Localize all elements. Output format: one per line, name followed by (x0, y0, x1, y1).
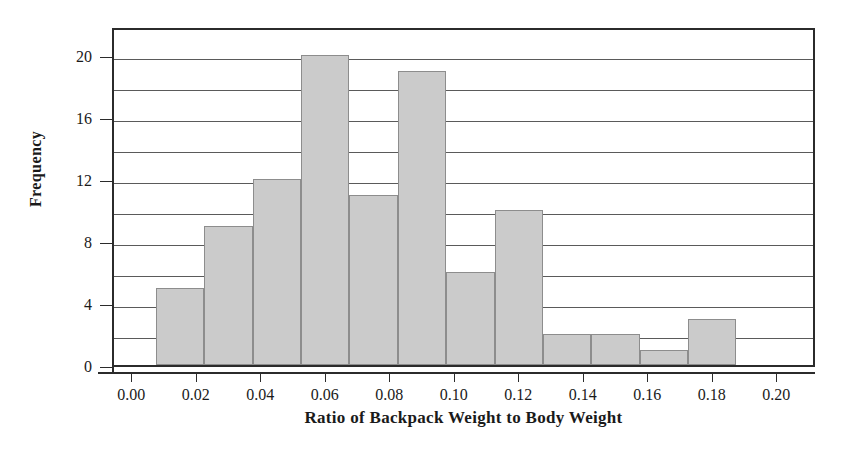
x-axis-tick-mark (712, 373, 713, 382)
x-axis-tick-mark (583, 373, 584, 382)
gridline (114, 152, 813, 153)
x-axis-tick-mark (196, 373, 197, 382)
y-axis-title: Frequency (27, 89, 45, 249)
x-axis-title: Ratio of Backpack Weight to Body Weight (112, 408, 815, 428)
x-axis-tick-mark (260, 373, 261, 382)
plot-inner (114, 30, 813, 365)
x-axis-tick-label: 0.06 (295, 387, 355, 403)
x-axis-tick-label: 0.20 (746, 387, 806, 403)
y-axis-tick-label: 20 (46, 49, 92, 65)
histogram-chart: Frequency 048121620 0.000.020.040.060.08… (0, 0, 858, 459)
y-axis-tick-mark (100, 305, 112, 306)
x-axis-tick-mark (454, 373, 455, 382)
histogram-bar (301, 55, 349, 365)
histogram-bar (688, 319, 736, 365)
histogram-bar (204, 226, 252, 365)
x-axis-tick-label: 0.14 (553, 387, 613, 403)
y-axis-tick-mark (100, 367, 112, 368)
gridline (114, 183, 813, 184)
x-axis-tick-mark (325, 373, 326, 382)
histogram-bar (591, 334, 639, 365)
x-axis-tick-mark (647, 373, 648, 382)
y-axis-tick-label: 12 (46, 173, 92, 189)
y-axis-tick-mark (100, 181, 112, 182)
histogram-bar (253, 179, 301, 365)
x-axis-tick-label: 0.00 (101, 387, 161, 403)
histogram-bar (495, 210, 543, 365)
histogram-bar (156, 288, 204, 365)
y-axis-tick-label: 4 (46, 297, 92, 313)
x-axis-tick-mark (389, 373, 390, 382)
y-axis-tick-mark (100, 57, 112, 58)
x-axis-tick-mark (776, 373, 777, 382)
x-axis-tick-label: 0.16 (617, 387, 677, 403)
histogram-bar (543, 334, 591, 365)
x-axis-tick-label: 0.10 (424, 387, 484, 403)
x-axis-tick-label: 0.18 (682, 387, 742, 403)
histogram-bar (446, 272, 494, 365)
histogram-bar (398, 71, 446, 365)
x-axis-tick-mark (518, 373, 519, 382)
gridline (114, 90, 813, 91)
x-axis-tick-label: 0.02 (166, 387, 226, 403)
gridline (114, 59, 813, 60)
y-axis-tick-mark (100, 119, 112, 120)
y-axis-tick-mark (100, 243, 112, 244)
gridline (114, 214, 813, 215)
histogram-bar (640, 350, 688, 365)
gridline (114, 121, 813, 122)
x-axis-tick-label: 0.12 (488, 387, 548, 403)
plot-area (112, 28, 815, 367)
x-axis-tick-label: 0.04 (230, 387, 290, 403)
y-axis-tick-label: 8 (46, 235, 92, 251)
x-axis-spine (98, 372, 815, 374)
x-axis-tick-mark (131, 373, 132, 382)
y-axis-tick-label: 0 (46, 359, 92, 375)
y-axis-tick-label: 16 (46, 111, 92, 127)
histogram-bar (349, 195, 397, 365)
x-axis-tick-label: 0.08 (359, 387, 419, 403)
